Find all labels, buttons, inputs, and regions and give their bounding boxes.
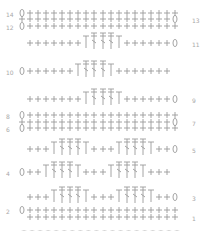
double-crochet-icon <box>82 38 90 48</box>
crossed-double-crochet-icon <box>82 66 90 76</box>
crossed-double-crochet-icon <box>131 167 139 177</box>
single-crochet-icon <box>66 94 74 104</box>
single-crochet-icon <box>82 167 90 177</box>
chain-icon <box>18 205 26 215</box>
single-crochet-icon <box>34 21 42 31</box>
foundation-chain <box>20 222 186 231</box>
single-crochet-icon <box>163 94 171 104</box>
single-crochet-icon <box>131 94 139 104</box>
single-crochet-icon <box>155 192 163 202</box>
crossed-double-crochet-icon <box>139 192 147 202</box>
single-crochet-icon <box>171 123 179 133</box>
crossed-double-crochet-icon <box>123 192 131 202</box>
row-number-11: 11 <box>192 42 200 48</box>
single-crochet-icon <box>34 123 42 133</box>
single-crochet-icon <box>90 21 98 31</box>
single-crochet-icon <box>74 21 82 31</box>
single-crochet-icon <box>99 167 107 177</box>
single-crochet-icon <box>147 167 155 177</box>
crossed-double-crochet-icon <box>107 38 115 48</box>
single-crochet-icon <box>163 144 171 154</box>
chain-icon <box>18 123 26 133</box>
double-crochet-icon <box>107 66 115 76</box>
single-crochet-icon <box>74 94 82 104</box>
single-crochet-icon <box>34 94 42 104</box>
crossed-double-crochet-icon <box>99 66 107 76</box>
single-crochet-icon <box>123 212 131 222</box>
single-crochet-icon <box>26 94 34 104</box>
double-crochet-icon <box>82 94 90 104</box>
chain-icon <box>171 192 179 202</box>
row-number-9: 9 <box>192 98 196 104</box>
row-number-2: 2 <box>6 209 10 215</box>
single-crochet-icon <box>99 21 107 31</box>
crossed-double-crochet-icon <box>123 144 131 154</box>
single-crochet-icon <box>115 66 123 76</box>
single-crochet-icon <box>123 38 131 48</box>
single-crochet-icon <box>26 21 34 31</box>
single-crochet-icon <box>90 212 98 222</box>
single-crochet-icon <box>34 167 42 177</box>
crochet-chart: 1413121110987654321 <box>0 0 204 231</box>
crossed-double-crochet-icon <box>66 192 74 202</box>
crossed-double-crochet-icon <box>131 144 139 154</box>
single-crochet-icon <box>34 38 42 48</box>
single-crochet-icon <box>66 212 74 222</box>
double-crochet-icon <box>139 167 147 177</box>
crossed-double-crochet-icon <box>90 94 98 104</box>
single-crochet-icon <box>99 123 107 133</box>
crossed-double-crochet-icon <box>139 144 147 154</box>
single-crochet-icon <box>139 123 147 133</box>
double-crochet-icon <box>74 167 82 177</box>
row-number-14: 14 <box>6 12 14 18</box>
crossed-double-crochet-icon <box>50 167 58 177</box>
single-crochet-icon <box>74 123 82 133</box>
single-crochet-icon <box>115 212 123 222</box>
single-crochet-icon <box>66 123 74 133</box>
single-crochet-icon <box>139 66 147 76</box>
crossed-double-crochet-icon <box>90 66 98 76</box>
double-crochet-icon <box>82 192 90 202</box>
crossed-double-crochet-icon <box>123 167 131 177</box>
single-crochet-icon <box>115 123 123 133</box>
single-crochet-icon <box>26 123 34 133</box>
single-crochet-icon <box>82 123 90 133</box>
single-crochet-icon <box>50 94 58 104</box>
single-crochet-icon <box>139 94 147 104</box>
double-crochet-icon <box>42 167 50 177</box>
single-crochet-icon <box>123 94 131 104</box>
row-number-3: 3 <box>192 196 196 202</box>
row-number-5: 5 <box>192 148 196 154</box>
single-crochet-icon <box>66 38 74 48</box>
single-crochet-icon <box>99 212 107 222</box>
single-crochet-icon <box>34 144 42 154</box>
single-crochet-icon <box>34 66 42 76</box>
single-crochet-icon <box>26 167 34 177</box>
single-crochet-icon <box>50 212 58 222</box>
single-crochet-icon <box>90 167 98 177</box>
single-crochet-icon <box>163 167 171 177</box>
crossed-double-crochet-icon <box>66 167 74 177</box>
single-crochet-icon <box>155 212 163 222</box>
crossed-double-crochet-icon <box>74 192 82 202</box>
single-crochet-icon <box>155 123 163 133</box>
crossed-double-crochet-icon <box>115 167 123 177</box>
single-crochet-icon <box>42 38 50 48</box>
crossed-double-crochet-icon <box>90 38 98 48</box>
single-crochet-icon <box>26 144 34 154</box>
double-crochet-icon <box>50 144 58 154</box>
single-crochet-icon <box>155 167 163 177</box>
single-crochet-icon <box>90 123 98 133</box>
single-crochet-icon <box>107 192 115 202</box>
single-crochet-icon <box>42 123 50 133</box>
single-crochet-icon <box>90 192 98 202</box>
single-crochet-icon <box>155 21 163 31</box>
single-crochet-icon <box>50 66 58 76</box>
single-crochet-icon <box>115 21 123 31</box>
chain-icon <box>18 66 26 76</box>
single-crochet-icon <box>107 21 115 31</box>
single-crochet-icon <box>139 38 147 48</box>
double-crochet-icon <box>82 144 90 154</box>
single-crochet-icon <box>66 66 74 76</box>
crossed-double-crochet-icon <box>131 192 139 202</box>
